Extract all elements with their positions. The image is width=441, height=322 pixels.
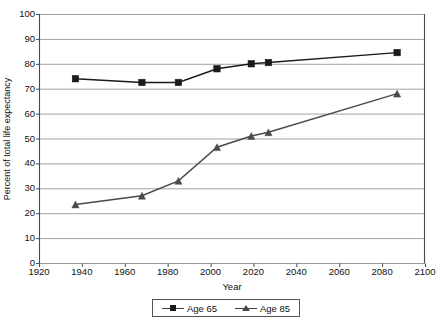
x-tick-label: 2100 — [405, 267, 441, 277]
triangle-marker-icon — [235, 303, 257, 313]
x-tick-label: 1960 — [105, 267, 145, 277]
y-tick-label: 10 — [13, 233, 35, 243]
x-axis-title: Year — [39, 281, 425, 292]
y-tick-label: 60 — [13, 109, 35, 119]
y-tick-label: 40 — [13, 158, 35, 168]
legend-label-age-65: Age 65 — [187, 303, 217, 314]
x-tick-label: 1980 — [148, 267, 188, 277]
series-layer — [72, 49, 401, 207]
y-tick-label: 90 — [13, 34, 35, 44]
x-tick-label: 1940 — [62, 267, 102, 277]
chart-legend: Age 65 Age 85 — [152, 299, 300, 317]
x-tick-label: 2040 — [276, 267, 316, 277]
x-tick-label: 1920 — [19, 267, 59, 277]
y-tick-label: 30 — [13, 183, 35, 193]
x-tick-label: 2060 — [319, 267, 359, 277]
x-tick-label: 2020 — [233, 267, 273, 277]
life-expectancy-chart: Percent of total life expectancy 0102030… — [0, 0, 441, 322]
y-tick-label: 50 — [13, 134, 35, 144]
y-tick-label: 100 — [13, 9, 35, 19]
legend-item-age-85[interactable]: Age 85 — [235, 303, 290, 314]
legend-item-age-65[interactable]: Age 65 — [162, 303, 217, 314]
y-tick-label: 20 — [13, 208, 35, 218]
square-marker-icon — [162, 303, 184, 313]
x-tick-label: 2000 — [191, 267, 231, 277]
x-tick-label: 2080 — [362, 267, 402, 277]
axis-frame — [40, 14, 425, 263]
legend-label-age-85: Age 85 — [260, 303, 290, 314]
y-tick-label: 80 — [13, 59, 35, 69]
gridlines — [39, 15, 425, 264]
tick-marks — [36, 15, 426, 268]
y-tick-label: 70 — [13, 84, 35, 94]
